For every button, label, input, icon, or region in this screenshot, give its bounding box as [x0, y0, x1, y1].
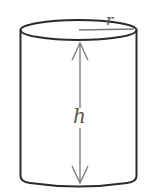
cylinder-diagram: r h: [0, 0, 146, 192]
cylinder-top-ellipse: [21, 20, 137, 40]
radius-line: [79, 29, 134, 30]
height-label: h: [73, 104, 86, 128]
radius-label: r: [106, 11, 114, 29]
